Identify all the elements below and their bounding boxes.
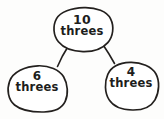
node-left-label: 6 threes	[10, 70, 64, 94]
node-left-word: threes	[10, 82, 64, 94]
connector-root-to-left	[58, 48, 68, 67]
node-right-word: threes	[105, 78, 157, 90]
node-root-label: 10 threes	[54, 13, 110, 38]
number-bond-diagram: 10 threes 6 threes 4 threes	[0, 0, 164, 119]
connector-root-to-right	[104, 46, 115, 64]
node-root-word: threes	[54, 26, 110, 38]
node-right-label: 4 threes	[105, 66, 157, 90]
